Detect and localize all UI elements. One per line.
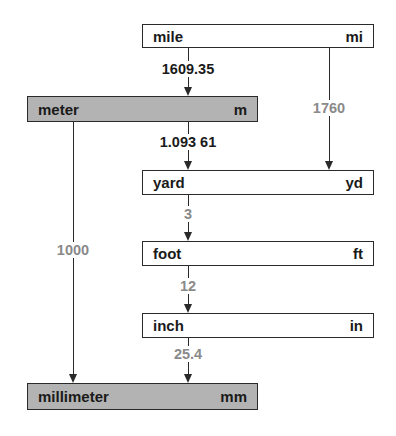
unit-name: meter bbox=[38, 101, 79, 118]
unit-box-inch: inch in bbox=[142, 313, 374, 338]
unit-symbol: mm bbox=[220, 388, 247, 405]
arrow-down-icon bbox=[69, 374, 77, 383]
arrow-down-icon bbox=[184, 304, 192, 313]
unit-name: millimeter bbox=[38, 388, 109, 405]
unit-symbol: in bbox=[350, 317, 363, 334]
unit-symbol: yd bbox=[345, 174, 363, 191]
factor-mile-meter: 1609.35 bbox=[160, 61, 216, 77]
unit-box-millimeter: millimeter mm bbox=[27, 383, 258, 410]
arrow-down-icon bbox=[184, 161, 192, 170]
unit-box-mile: mile mi bbox=[142, 24, 374, 48]
factor-inch-millimeter: 25.4 bbox=[172, 346, 204, 362]
unit-name: yard bbox=[153, 174, 185, 191]
arrow-down-icon bbox=[184, 374, 192, 383]
unit-name: foot bbox=[153, 245, 181, 262]
factor-meter-millimeter: 1000 bbox=[55, 242, 91, 258]
arrow-down-icon bbox=[184, 232, 192, 241]
arrow-down-icon bbox=[184, 87, 192, 96]
unit-conversion-diagram: 1609.35 1760 1.093 61 1000 3 12 25.4 mil… bbox=[0, 0, 396, 436]
factor-foot-inch: 12 bbox=[178, 278, 198, 294]
unit-box-foot: foot ft bbox=[142, 241, 374, 266]
unit-symbol: m bbox=[234, 101, 247, 118]
factor-meter-yard: 1.093 61 bbox=[158, 134, 218, 150]
unit-name: inch bbox=[153, 317, 184, 334]
unit-symbol: mi bbox=[345, 28, 363, 45]
unit-box-yard: yard yd bbox=[142, 170, 374, 195]
factor-yard-foot: 3 bbox=[182, 206, 194, 222]
unit-box-meter: meter m bbox=[27, 96, 258, 122]
unit-symbol: ft bbox=[353, 245, 363, 262]
unit-name: mile bbox=[153, 28, 183, 45]
factor-mile-yard: 1760 bbox=[311, 100, 347, 116]
arrow-down-icon bbox=[325, 161, 333, 170]
